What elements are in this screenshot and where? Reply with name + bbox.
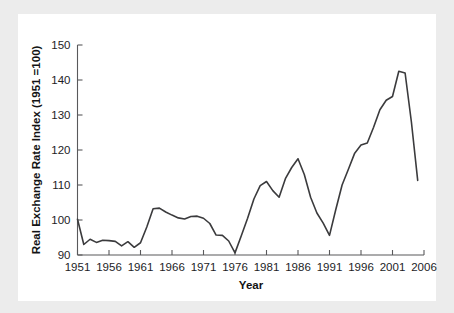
y-axis: 90100110120130140150 Real Exchange Rate … [30, 39, 83, 261]
x-tick-label-2001: 2001 [380, 261, 406, 273]
y-tick-label-150: 150 [51, 39, 70, 51]
y-tick-label-group: 90100110120130140150 [51, 39, 70, 261]
y-tick-label-110: 110 [52, 179, 70, 191]
x-tick-label-1951: 1951 [65, 261, 91, 273]
line-chart: 90100110120130140150 Real Exchange Rate … [0, 0, 454, 313]
y-tick-label-140: 140 [51, 74, 70, 86]
y-tick-label-100: 100 [51, 214, 70, 226]
x-tick-label-1966: 1966 [159, 261, 185, 273]
x-tick-label-1996: 1996 [348, 261, 374, 273]
x-axis-title: Year [239, 279, 264, 291]
x-axis: 1951195619611966197119761981198619911996… [65, 250, 437, 291]
x-tick-label-1956: 1956 [96, 261, 122, 273]
data-series-line [78, 71, 418, 253]
x-tick-label-1981: 1981 [254, 261, 280, 273]
x-tick-label-1986: 1986 [285, 261, 311, 273]
y-tick-label-90: 90 [58, 249, 71, 261]
x-tick-label-1976: 1976 [222, 261, 248, 273]
y-tick-label-120: 120 [51, 144, 70, 156]
x-tick-label-1971: 1971 [191, 261, 217, 273]
x-tick-label-2006: 2006 [411, 261, 437, 273]
figure-root: 90100110120130140150 Real Exchange Rate … [0, 0, 454, 313]
y-tick-label-130: 130 [51, 109, 70, 121]
x-tick-group [78, 250, 425, 255]
x-tick-label-group: 1951195619611966197119761981198619911996… [65, 261, 437, 273]
x-tick-label-1991: 1991 [317, 261, 343, 273]
x-tick-label-1961: 1961 [128, 261, 154, 273]
y-axis-title: Real Exchange Rate Index (1951 =100) [30, 45, 42, 254]
